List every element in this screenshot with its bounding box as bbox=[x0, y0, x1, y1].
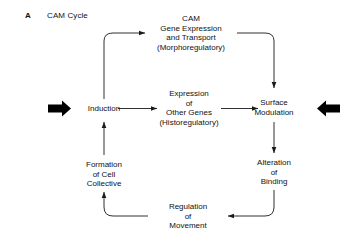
node-expression-of-other-genes: Expression of Other Genes (Historegulato… bbox=[159, 89, 218, 127]
node-line: Other Genes bbox=[159, 108, 218, 118]
node-line: (Morphoregulatory) bbox=[157, 43, 225, 53]
node-line: and Transport bbox=[157, 33, 225, 43]
node-line: of bbox=[159, 98, 218, 108]
connector-alteration-of-binding-to-regulation-of-movement bbox=[228, 190, 274, 216]
node-surface-modulation: Surface Modulation bbox=[254, 98, 293, 117]
node-formation-of-cell-collective: Formation of Cell Collective bbox=[86, 160, 122, 189]
node-line: of bbox=[169, 211, 207, 221]
node-line: Expression bbox=[159, 89, 218, 99]
connector-induction-to-cam-gene-expression bbox=[104, 33, 145, 99]
node-cam-gene-expression-and-transport: CAM Gene Expression and Transport (Morph… bbox=[157, 14, 225, 52]
node-regulation-of-movement: Regulation of Movement bbox=[169, 202, 207, 231]
node-line: of Cell bbox=[86, 169, 122, 179]
node-line: Gene Expression bbox=[157, 23, 225, 33]
connector-regulation-of-movement-to-formation-of-cell-collective bbox=[104, 192, 148, 216]
node-line: Surface bbox=[254, 98, 293, 108]
node-line: Regulation bbox=[169, 202, 207, 212]
node-line: Alteration bbox=[257, 158, 291, 168]
node-line: of bbox=[257, 167, 291, 177]
connector-cam-gene-expression-to-surface-modulation bbox=[237, 33, 274, 88]
input-arrow-left bbox=[48, 101, 71, 117]
node-alteration-of-binding: Alteration of Binding bbox=[257, 158, 291, 187]
node-line: Induction bbox=[88, 104, 120, 114]
node-line: (Historegulatory) bbox=[159, 118, 218, 128]
node-line: Binding bbox=[257, 177, 291, 187]
node-induction: Induction bbox=[88, 104, 120, 114]
cam-cycle-figure: A CAM Cycle bbox=[0, 0, 349, 246]
node-line: CAM bbox=[157, 14, 225, 24]
node-line: Modulation bbox=[254, 108, 293, 118]
node-line: Collective bbox=[86, 179, 122, 189]
node-line: Formation bbox=[86, 160, 122, 170]
node-line: Movement bbox=[169, 221, 207, 231]
input-arrow-right bbox=[317, 101, 340, 117]
